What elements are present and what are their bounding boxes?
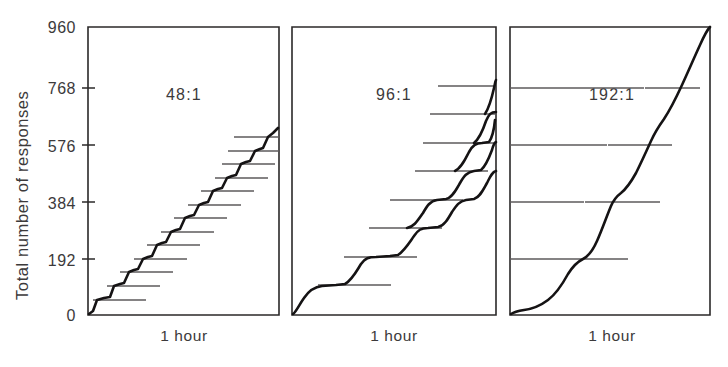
panel-3-cumulative-curve xyxy=(511,27,710,314)
panel-1-frame xyxy=(88,27,279,315)
y-tick-label-384: 384 xyxy=(48,195,76,212)
y-axis-title: Total number of responses xyxy=(13,91,31,300)
y-tick-label-576: 576 xyxy=(48,138,76,155)
panel-48-1: 48:1 xyxy=(88,27,279,315)
panel-192-1: 192:1 xyxy=(510,27,710,315)
x-axis-label-panel-3: 1 hour xyxy=(588,327,636,344)
panel-2-reinforcement-marks xyxy=(318,86,496,285)
x-axis-label-panel-2: 1 hour xyxy=(370,327,418,344)
chart-canvas: Total number of responses 960 768 576 38… xyxy=(0,0,728,367)
y-tick-label-0: 0 xyxy=(67,307,76,324)
y-tick-label-960: 960 xyxy=(48,19,76,36)
y-tick-label-192: 192 xyxy=(48,252,76,269)
cumulative-record-figure: Total number of responses 960 768 576 38… xyxy=(0,0,728,367)
x-axis-label-panel-1: 1 hour xyxy=(160,327,208,344)
panel-1-cumulative-curve xyxy=(89,128,278,314)
panel-3-reinforcement-marks xyxy=(510,88,700,259)
panel-2-cumulative-curve xyxy=(293,171,496,314)
y-tick-label-768: 768 xyxy=(48,80,76,97)
panel-96-1: 96:1 xyxy=(292,27,496,315)
panel-3-frame xyxy=(510,27,710,315)
panel-2-label: 96:1 xyxy=(376,86,412,103)
panel-2-cumulative-curve-cont xyxy=(407,80,496,228)
panel-1-label: 48:1 xyxy=(166,86,202,103)
